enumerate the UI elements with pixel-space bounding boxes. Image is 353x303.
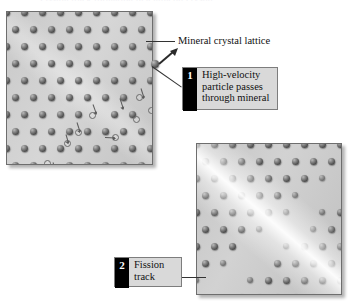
displaced-atom-vacancy <box>44 160 51 165</box>
atom <box>337 277 342 284</box>
atom <box>39 145 46 152</box>
atom <box>310 260 317 267</box>
mineral-crystal-lattice-panel <box>6 11 153 165</box>
atom <box>238 226 245 233</box>
leader-line-fission-track <box>182 277 206 278</box>
atom <box>265 277 272 284</box>
atom <box>337 209 342 216</box>
atom <box>30 162 37 165</box>
atom <box>274 294 281 295</box>
callout-text: Fission track <box>129 258 181 286</box>
atom <box>247 277 253 283</box>
callout-text: High-velocity particle passes through mi… <box>197 68 277 109</box>
atom <box>283 277 290 284</box>
atom <box>75 111 82 118</box>
atom <box>247 175 254 182</box>
atom <box>283 209 289 215</box>
atom <box>247 209 254 216</box>
atom <box>57 77 64 84</box>
atom <box>229 243 236 250</box>
callout-fission-track[interactable]: 2 Fission track <box>114 257 182 287</box>
atom <box>21 77 28 84</box>
atom <box>202 158 209 165</box>
atom <box>292 260 299 267</box>
leader-line-particle <box>152 66 182 87</box>
atom <box>301 175 308 182</box>
atom <box>21 43 28 50</box>
atom <box>220 192 227 199</box>
atom <box>319 175 325 181</box>
displaced-atom-vacancy <box>148 107 153 114</box>
atom <box>102 60 109 67</box>
atom <box>75 77 82 84</box>
atom <box>102 162 109 165</box>
atom <box>75 43 82 50</box>
atom <box>48 94 55 101</box>
atom <box>129 43 136 50</box>
atom <box>84 26 91 33</box>
atom <box>102 128 109 135</box>
atom <box>147 145 153 152</box>
atom <box>202 260 209 267</box>
atom <box>66 60 73 67</box>
atom <box>238 294 245 295</box>
atom <box>310 294 317 295</box>
atom <box>211 243 218 250</box>
atom <box>220 226 227 233</box>
figure-title-remnant: Fission track formation in a mineral cry… <box>40 0 320 1</box>
atom <box>265 175 272 182</box>
atom <box>12 60 19 67</box>
atom <box>319 277 326 284</box>
atom <box>211 175 218 182</box>
atom <box>283 243 289 249</box>
fission-track-panel <box>196 143 342 295</box>
atom <box>138 162 145 165</box>
atom <box>120 162 127 165</box>
callout-number-badge: 1 <box>183 68 197 111</box>
callout-high-velocity-particle[interactable]: 1 High-velocity particle passes through … <box>182 67 278 110</box>
atom <box>211 209 218 216</box>
atom <box>111 111 118 118</box>
atom <box>66 128 73 135</box>
atom <box>265 209 272 216</box>
atom <box>202 192 209 199</box>
atom <box>292 294 299 295</box>
atom <box>274 260 281 267</box>
atom <box>283 175 290 182</box>
panel-background <box>197 144 341 294</box>
atom <box>319 243 326 250</box>
displaced-atom-vacancy <box>133 116 140 123</box>
atom <box>111 145 118 152</box>
atom <box>337 243 342 250</box>
atom <box>238 158 245 165</box>
atom <box>328 226 335 233</box>
atom <box>138 60 145 67</box>
atom <box>220 158 227 165</box>
atom <box>84 60 91 67</box>
atom <box>93 43 100 50</box>
atom <box>66 26 73 33</box>
atom <box>39 77 46 84</box>
atom <box>48 128 55 135</box>
atom <box>120 26 127 33</box>
atom <box>12 162 19 165</box>
atom <box>319 209 325 215</box>
atom <box>12 26 19 33</box>
atom <box>75 145 82 152</box>
atom <box>84 128 91 135</box>
atom <box>39 111 46 118</box>
atom <box>229 209 236 216</box>
atom <box>12 94 19 101</box>
atom <box>256 192 263 199</box>
atom <box>30 94 37 101</box>
atom <box>274 158 281 165</box>
atom <box>202 226 209 233</box>
atom <box>256 158 263 165</box>
atom <box>21 145 28 152</box>
atom <box>310 158 317 165</box>
atom <box>292 192 298 198</box>
atom <box>147 77 153 84</box>
mineral-crystal-lattice-label: Mineral crystal lattice <box>178 35 270 46</box>
atom <box>102 26 109 33</box>
atom <box>57 43 64 50</box>
